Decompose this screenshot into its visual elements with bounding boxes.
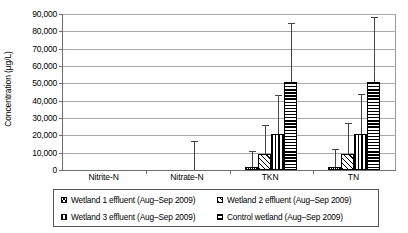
legend-item[interactable]: Control wetland (Aug–Sep 2009) (217, 212, 373, 222)
bar (367, 82, 380, 170)
legend-swatch-icon (217, 214, 223, 220)
error-bar-cap (345, 123, 352, 124)
chart-figure: Concentration (µg/L) 90,00080,00070,0006… (0, 0, 408, 233)
legend-item[interactable]: Wetland 3 effluent (Aug–Sep 2009) (61, 212, 217, 222)
bar-group (63, 14, 146, 170)
bar-group (230, 14, 313, 170)
y-axis-tick-label: 20,000 (32, 130, 57, 140)
x-axis-category-label: TKN (262, 172, 279, 182)
y-axis-tick-label: 60,000 (32, 61, 57, 71)
error-bar-cap (371, 17, 378, 18)
bar (245, 167, 258, 170)
error-bar (265, 125, 266, 154)
error-bar (335, 149, 336, 166)
legend-item-label: Wetland 1 effluent (Aug–Sep 2009) (71, 195, 195, 205)
y-axis-tick-label: 80,000 (32, 26, 57, 36)
bar (341, 154, 354, 170)
chart-legend: Wetland 1 effluent (Aug–Sep 2009)Wetland… (53, 189, 379, 227)
y-axis-tick-label: 40,000 (32, 96, 57, 106)
bar (354, 134, 367, 170)
error-bar-cap (288, 23, 295, 24)
legend-swatch-icon (61, 214, 67, 220)
legend-item[interactable]: Wetland 1 effluent (Aug–Sep 2009) (61, 195, 217, 205)
x-axis-category-label: Nitrate-N (170, 172, 203, 182)
plot-area (62, 14, 396, 171)
bar-group (146, 14, 229, 170)
error-bar (278, 95, 279, 134)
y-axis-tick-labels: 90,00080,00070,00060,00050,00040,00030,0… (14, 0, 60, 178)
y-axis-tick-label: 90,000 (32, 9, 57, 19)
error-bar (291, 23, 292, 82)
error-bar-cap (262, 125, 269, 126)
y-axis-title-label: Concentration (µg/L) (3, 51, 13, 127)
bar (284, 82, 297, 170)
error-bar-cap (358, 94, 365, 95)
y-axis-tick-label: 30,000 (32, 113, 57, 123)
error-bar (374, 17, 375, 81)
error-bar-cap (275, 95, 282, 96)
bar (271, 134, 284, 170)
error-bar (361, 94, 362, 135)
error-bar (252, 151, 253, 167)
y-axis-tick-label: 0 (52, 165, 57, 175)
error-bar (194, 141, 195, 170)
error-bar-cap (332, 149, 339, 150)
x-axis-category-label: TN (348, 172, 359, 182)
legend-swatch-icon (61, 197, 67, 203)
x-axis-category-label: Nitrite-N (88, 172, 118, 182)
legend-item[interactable]: Wetland 2 effluent (Aug–Sep 2009) (217, 195, 373, 205)
x-axis-category-labels: Nitrite-NNitrate-NTKNTN (62, 172, 396, 186)
legend-item-label: Wetland 2 effluent (Aug–Sep 2009) (227, 195, 351, 205)
y-axis-tick-label: 50,000 (32, 78, 57, 88)
bar (258, 154, 271, 170)
legend-item-label: Wetland 3 effluent (Aug–Sep 2009) (71, 212, 195, 222)
error-bar-cap (191, 141, 198, 142)
legend-item-label: Control wetland (Aug–Sep 2009) (227, 212, 343, 222)
y-axis-tick-mark (59, 170, 63, 171)
bar-group (313, 14, 396, 170)
error-bar-cap (249, 151, 256, 152)
bar (328, 167, 341, 170)
y-axis-tick-label: 70,000 (32, 44, 57, 54)
legend-swatch-icon (217, 197, 223, 203)
y-axis-tick-label: 10,000 (32, 148, 57, 158)
error-bar (348, 123, 349, 153)
